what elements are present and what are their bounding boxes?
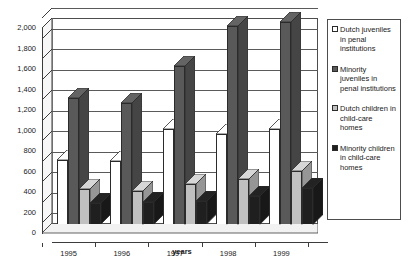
bar-group bbox=[57, 18, 101, 224]
bar bbox=[174, 66, 185, 224]
x-axis-title: years bbox=[42, 247, 322, 256]
depth-tick bbox=[42, 70, 53, 81]
y-axis-tick-label: 2,000 bbox=[17, 24, 36, 32]
legend-item[interactable]: Minority juveniles in penal institutions bbox=[332, 65, 397, 94]
legend-item-label: Minority juveniles in penal institutions bbox=[340, 65, 397, 94]
bar-3d-shading bbox=[302, 178, 323, 230]
depth-tick bbox=[42, 90, 53, 101]
y-axis-tick-label: 1,400 bbox=[17, 86, 36, 94]
bar-3d-shading bbox=[196, 191, 217, 230]
bar-3d-shading bbox=[143, 192, 164, 230]
bar bbox=[68, 98, 79, 224]
legend-item[interactable]: Dutch children in child-care homes bbox=[332, 104, 397, 133]
depth-tick bbox=[42, 172, 53, 183]
bar bbox=[185, 184, 196, 224]
bar bbox=[57, 160, 68, 224]
x-axis-line bbox=[52, 242, 328, 243]
gridline bbox=[52, 8, 318, 9]
legend-item-label: Minority children in child-care homes bbox=[340, 144, 397, 173]
bar bbox=[110, 161, 121, 224]
plot-area: 19951996199719981999 bbox=[42, 18, 318, 234]
legend-swatch-icon bbox=[332, 145, 338, 151]
bar-group bbox=[110, 18, 154, 224]
legend-item-label: Dutch children in child-care homes bbox=[340, 104, 397, 133]
y-axis-tick-label: 1,800 bbox=[17, 45, 36, 53]
y-axis-tick-label: 1,000 bbox=[17, 127, 36, 135]
bar bbox=[302, 188, 313, 224]
bar bbox=[143, 202, 154, 224]
depth-tick bbox=[42, 8, 53, 19]
legend-swatch-icon bbox=[332, 66, 338, 72]
bar-chart-figure: 2,0001,8001,6001,4001,2001,0008006004002… bbox=[0, 0, 409, 275]
bar-3d-shading bbox=[249, 186, 270, 230]
bar bbox=[196, 201, 207, 224]
depth-tick bbox=[42, 111, 53, 122]
legend-item[interactable]: Dutch juveniles in penal institutions bbox=[332, 25, 397, 54]
y-axis-tick-label: 1,200 bbox=[17, 106, 36, 114]
y-axis-tick-label: 1,600 bbox=[17, 65, 36, 73]
bar bbox=[132, 191, 143, 224]
bar-3d-shading bbox=[90, 193, 111, 230]
y-axis-tick-label: 800 bbox=[23, 147, 36, 155]
bar bbox=[90, 203, 101, 224]
bar bbox=[227, 26, 238, 224]
bar bbox=[121, 103, 132, 224]
y-axis-tick-label: 0 bbox=[32, 229, 36, 237]
bar-group bbox=[269, 18, 313, 224]
legend-swatch-icon bbox=[332, 26, 338, 32]
bar bbox=[216, 134, 227, 224]
depth-tick bbox=[42, 152, 53, 163]
depth-tick bbox=[42, 131, 53, 142]
depth-tick bbox=[42, 193, 53, 204]
y-axis-tick-label: 600 bbox=[23, 168, 36, 176]
depth-tick bbox=[42, 49, 53, 60]
depth-tick bbox=[42, 213, 53, 224]
legend-item-label: Dutch juveniles in penal institutions bbox=[340, 25, 397, 54]
bar-group bbox=[163, 18, 207, 224]
depth-tick bbox=[42, 29, 53, 40]
chart-legend: Dutch juveniles in penal institutionsMin… bbox=[327, 19, 401, 220]
bar bbox=[249, 196, 260, 224]
y-axis-tick-label: 400 bbox=[23, 188, 36, 196]
bar-group bbox=[216, 18, 260, 224]
y-axis-tick-labels: 2,0001,8001,6001,4001,2001,0008006004002… bbox=[0, 18, 40, 234]
y-axis-tick-label: 200 bbox=[23, 209, 36, 217]
bar bbox=[269, 129, 280, 224]
bar bbox=[238, 179, 249, 224]
legend-swatch-icon bbox=[332, 105, 338, 111]
bar bbox=[163, 129, 174, 224]
bar bbox=[280, 22, 291, 224]
bar bbox=[291, 171, 302, 224]
bar bbox=[79, 189, 90, 224]
legend-item[interactable]: Minority children in child-care homes bbox=[332, 144, 397, 173]
